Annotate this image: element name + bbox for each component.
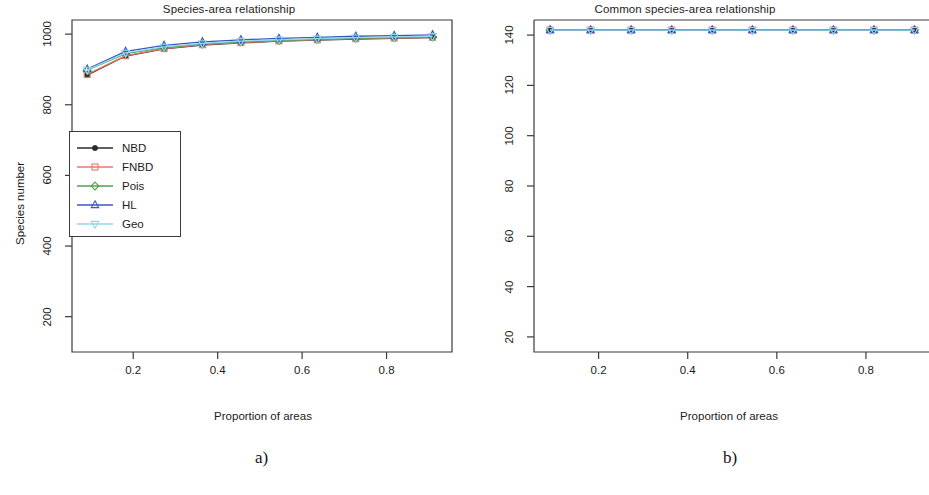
legend-item-hl: HL (70, 195, 180, 214)
x-axis-title-b: Proportion of areas (534, 410, 924, 422)
y-tick-label: 400 (39, 230, 55, 262)
x-tick-label: 0.4 (668, 364, 708, 376)
x-tick-label: 0.8 (846, 364, 886, 376)
y-tick-label: 140 (501, 19, 517, 51)
legend-item-geo: Geo (70, 214, 180, 233)
triangle-up-icon (75, 198, 115, 212)
y-tick-label: 1000 (39, 18, 55, 50)
figure-species-area: Species-area relationship Species number… (0, 0, 929, 495)
legend-item-pois: Pois (70, 176, 180, 195)
x-tick-label: 0.6 (282, 364, 322, 376)
y-tick-label: 60 (501, 220, 517, 252)
y-tick-label: 100 (501, 120, 517, 152)
x-tick-label: 0.2 (113, 364, 153, 376)
legend-item-fnbd: FNBD (70, 157, 180, 176)
square-icon (75, 160, 115, 174)
legend-label: HL (122, 199, 137, 211)
legend-a: NBDFNBDPoisHLGeo (69, 131, 181, 237)
y-tick-label: 40 (501, 271, 517, 303)
legend-label: FNBD (122, 161, 153, 173)
legend-label: Pois (122, 180, 144, 192)
y-tick-label: 80 (501, 170, 517, 202)
x-tick-label: 0.2 (579, 364, 619, 376)
y-tick-label: 600 (39, 159, 55, 191)
y-tick-label: 200 (39, 301, 55, 333)
chart-panel-b: Common species-area relationship NBDFNBD… (465, 0, 929, 440)
y-tick-label: 20 (501, 321, 517, 353)
x-tick-label: 0.6 (757, 364, 797, 376)
circle-filled-icon (75, 141, 115, 155)
legend-label: Geo (122, 218, 144, 230)
chart-panel-a: Species-area relationship Species number… (0, 0, 465, 440)
y-tick-label: 800 (39, 89, 55, 121)
legend-label: NBD (122, 142, 146, 154)
panel-caption-b: b) (723, 448, 737, 468)
x-tick-label: 0.4 (198, 364, 238, 376)
x-tick-label: 0.8 (367, 364, 407, 376)
triangle-down-icon (75, 217, 115, 231)
diamond-icon (75, 179, 115, 193)
panel-caption-a: a) (255, 448, 268, 468)
y-tick-label: 120 (501, 69, 517, 101)
legend-item-nbd: NBD (70, 138, 180, 157)
